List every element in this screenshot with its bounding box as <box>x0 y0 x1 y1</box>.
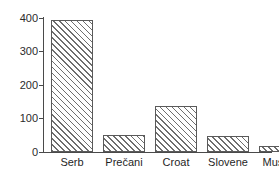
y-tick-label-200: 200 <box>20 80 38 91</box>
x-axis-line <box>43 152 272 153</box>
x-tick-label-muslim: Muslim <box>249 156 279 168</box>
y-tick-label-0: 0 <box>32 147 38 158</box>
y-tick-label-300: 300 <box>20 46 38 57</box>
bar-serb <box>51 20 93 152</box>
y-tick-label-100: 100 <box>20 113 38 124</box>
plot-area <box>44 18 272 152</box>
bar-precani <box>103 135 145 152</box>
bar-muslim <box>259 146 279 152</box>
y-tick-label-400: 400 <box>20 13 38 24</box>
bar-croat <box>155 106 197 152</box>
bar-chart-figure: 400 300 200 100 0 Serb Prečani Croat Slo… <box>0 0 279 180</box>
bar-slovene <box>207 136 249 152</box>
